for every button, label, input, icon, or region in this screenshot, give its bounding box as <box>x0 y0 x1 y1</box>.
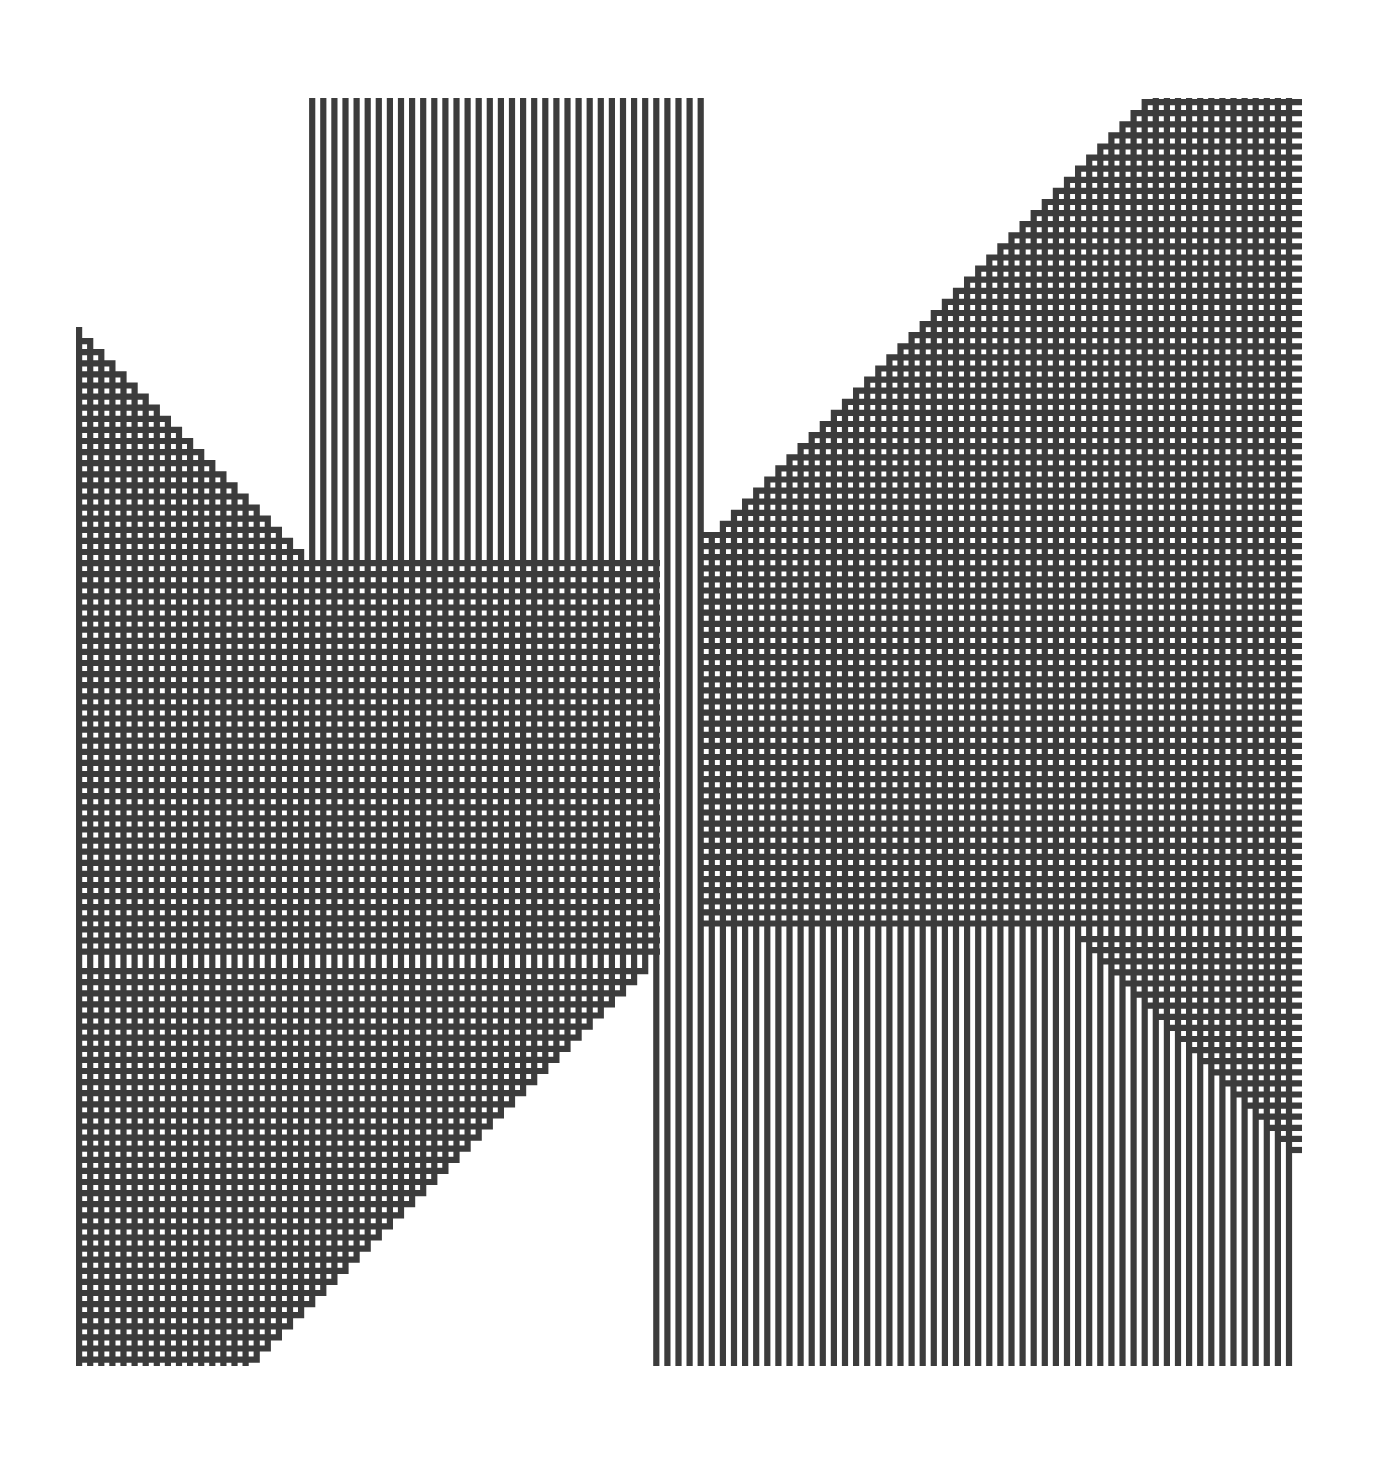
stripe <box>956 291 1302 1366</box>
op-art-line-pattern <box>0 0 1376 1460</box>
stripe-group <box>76 98 1302 1366</box>
stripe <box>1111 135 1302 1366</box>
stripe <box>889 357 1302 1366</box>
